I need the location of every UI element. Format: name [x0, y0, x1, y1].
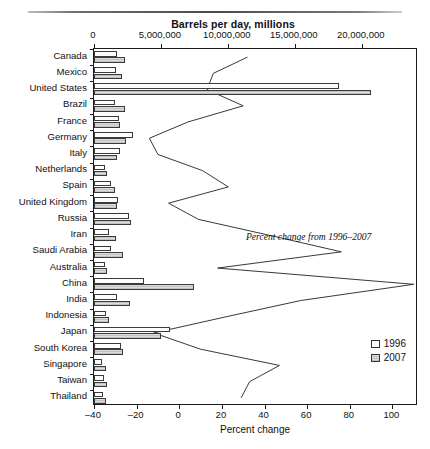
bar-2007	[94, 382, 107, 388]
category-label-germany: Germany	[48, 132, 87, 142]
bar-2007	[94, 333, 161, 339]
chart-figure: Barrels per day, millions 05,000,00010,0…	[0, 0, 430, 449]
category-label-thailand: Thailand	[50, 391, 87, 401]
top-tick-label: 15,000,000	[270, 29, 318, 40]
bar-1996	[94, 181, 111, 187]
category-label-south-korea: South Korea	[34, 343, 87, 353]
category-axis-tick	[90, 276, 94, 277]
category-axis-tick	[90, 325, 94, 326]
category-label-japan: Japan	[61, 326, 87, 336]
category-axis-tick	[90, 374, 94, 375]
category-label-france: France	[57, 116, 87, 126]
bottom-axis-title: Percent change	[93, 424, 417, 435]
top-axis-tick	[94, 44, 95, 49]
bar-1996	[94, 116, 119, 122]
category-label-mexico: Mexico	[57, 67, 87, 77]
category-label-united-states: United States	[29, 83, 87, 93]
category-axis-tick	[90, 98, 94, 99]
bar-2007	[94, 138, 126, 144]
top-tick-label: 10,000,000	[203, 29, 251, 40]
bar-2007	[94, 171, 107, 177]
bar-1996	[94, 294, 117, 300]
category-axis-tick	[90, 292, 94, 293]
bar-2007	[94, 203, 117, 209]
category-label-united-kingdom: United Kingdom	[19, 197, 87, 207]
top-axis-tick	[295, 44, 296, 49]
category-label-iran: Iran	[70, 229, 87, 239]
bar-1996	[94, 359, 102, 365]
bar-1996	[94, 343, 121, 349]
bar-1996	[94, 148, 120, 154]
percent-change-line	[94, 49, 418, 406]
bar-1996	[94, 327, 170, 333]
bar-1996	[94, 246, 111, 252]
bar-1996	[94, 165, 105, 171]
category-label-saudi-arabia: Saudi Arabia	[33, 245, 87, 255]
category-axis-tick	[90, 195, 94, 196]
bar-2007	[94, 187, 115, 193]
category-label-brazil: Brazil	[63, 99, 87, 109]
top-tick-label: 0	[90, 29, 95, 40]
category-axis-tick	[90, 130, 94, 131]
bar-1996	[94, 100, 115, 106]
bar-1996	[94, 132, 133, 138]
category-axis-labels: CanadaMexicoUnited StatesBrazilFranceGer…	[0, 48, 91, 405]
category-axis-tick	[90, 390, 94, 391]
top-axis-tick	[161, 44, 162, 49]
bar-2007	[94, 90, 371, 96]
category-label-spain: Spain	[62, 180, 87, 190]
bottom-tick-label: 60	[301, 409, 312, 420]
bar-1996	[94, 197, 118, 203]
top-axis-tick	[228, 44, 229, 49]
bar-2007	[94, 284, 194, 290]
legend-item-1996: 1996	[371, 338, 406, 349]
category-label-indonesia: Indonesia	[45, 310, 87, 320]
category-axis-tick	[90, 341, 94, 342]
category-label-india: India	[66, 294, 87, 304]
category-axis-tick	[90, 244, 94, 245]
category-label-russia: Russia	[58, 213, 87, 223]
bottom-tick-label: –20	[128, 409, 144, 420]
bar-2007	[94, 122, 120, 128]
legend-label-1996: 1996	[384, 338, 406, 349]
category-axis-tick	[90, 309, 94, 310]
bottom-tick-label: 40	[258, 409, 269, 420]
percent-change-annotation: Percent change from 1996–2007	[246, 231, 371, 242]
bar-1996	[94, 392, 103, 398]
bar-1996	[94, 83, 339, 89]
bottom-tick-label: 100	[383, 409, 399, 420]
bar-2007	[94, 268, 107, 274]
bar-2007	[94, 57, 125, 63]
bar-2007	[94, 74, 122, 80]
legend-swatch-1996-icon	[371, 340, 380, 348]
category-axis-tick	[90, 228, 94, 229]
category-axis-tick	[90, 146, 94, 147]
legend-label-2007: 2007	[384, 352, 406, 363]
top-tick-label: 5,000,000	[139, 29, 181, 40]
category-label-italy: Italy	[69, 148, 87, 158]
category-label-china: China	[62, 278, 87, 288]
bar-2007	[94, 220, 131, 226]
bottom-tick-label: 20	[216, 409, 227, 420]
top-axis-tick	[362, 44, 363, 49]
bar-1996	[94, 51, 117, 57]
category-label-canada: Canada	[53, 51, 87, 61]
legend-swatch-2007-icon	[371, 354, 380, 362]
bar-1996	[94, 213, 129, 219]
bar-2007	[94, 155, 117, 161]
bottom-tick-label: 0	[176, 409, 181, 420]
bar-1996	[94, 311, 106, 317]
bar-2007	[94, 236, 116, 242]
bar-1996	[94, 375, 104, 381]
bar-2007	[94, 398, 106, 404]
category-axis-tick	[90, 65, 94, 66]
bar-2007	[94, 349, 123, 355]
legend-item-2007: 2007	[371, 352, 406, 363]
category-axis-tick	[90, 179, 94, 180]
bar-1996	[94, 67, 116, 73]
category-axis-tick	[90, 163, 94, 164]
bar-1996	[94, 229, 109, 235]
bar-2007	[94, 106, 125, 112]
bar-1996	[94, 262, 105, 268]
bottom-tick-label: 80	[343, 409, 354, 420]
